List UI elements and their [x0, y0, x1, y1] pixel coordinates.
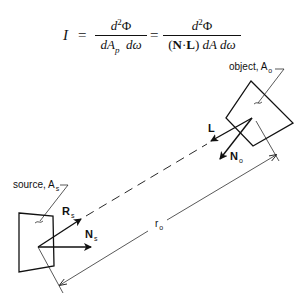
label-N-s: Ns [85, 228, 97, 240]
vector-L [211, 118, 252, 141]
label-r-o: ro [155, 218, 163, 229]
label-R-s: Rs [62, 205, 74, 217]
label-N-o: No [230, 150, 243, 162]
object-label: object, Ao [229, 61, 272, 72]
object-label-leader [258, 69, 284, 103]
dimension-line-upper [167, 155, 276, 220]
object-surface [226, 81, 293, 146]
vector-R-s [38, 219, 81, 247]
geometry-diagram [0, 0, 308, 305]
label-L: L [208, 122, 215, 134]
dashed-connector [86, 144, 207, 216]
dimension-line-lower [60, 231, 148, 285]
source-extension-line [38, 247, 63, 293]
source-label: source, As [13, 179, 59, 190]
